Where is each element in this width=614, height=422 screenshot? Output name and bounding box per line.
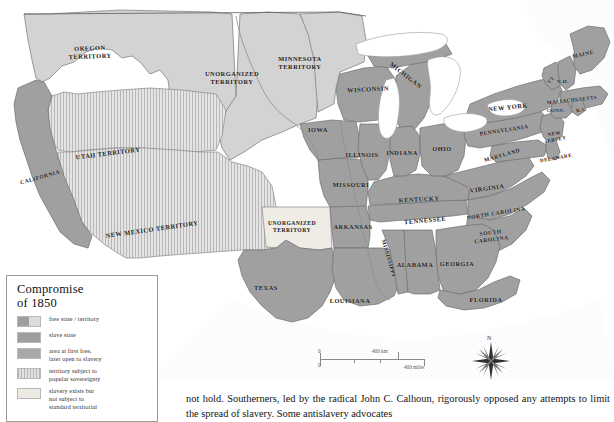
- compass-rose-icon: [468, 336, 514, 380]
- legend-label-line: slavery exists but: [49, 387, 97, 395]
- body-paragraph: not hold. Southerners, led by the radica…: [186, 391, 610, 421]
- compass-rose: N: [468, 336, 514, 380]
- legend-label-line: standard territorial: [49, 403, 97, 411]
- legend-label: territory subject topopular sovereignty: [49, 367, 100, 383]
- legend-label-line: free state / territory: [49, 315, 99, 323]
- legend-label-line: later open to slavery: [49, 355, 102, 363]
- scale-miles-label: 400 miles: [404, 364, 424, 370]
- legend-label-line: territory subject to: [49, 367, 100, 375]
- region-connecticut: [550, 102, 572, 118]
- unorganized-slavery-exists: [262, 207, 332, 250]
- legend-label: free state / territory: [49, 315, 99, 323]
- region-indiana: [390, 126, 420, 176]
- scale-bar-line: [320, 359, 424, 360]
- region-arkansas: [330, 206, 370, 248]
- scale-bar-tick-1: [354, 359, 355, 363]
- legend-title: Compromise of 1850: [7, 276, 157, 313]
- legend-label-line: not subject to: [49, 395, 97, 403]
- page-root: OREGONTERRITORYUNORGANIZEDTERRITORYMINNE…: [0, 0, 614, 422]
- legend-item: free state / territory: [7, 313, 157, 329]
- compass-north-label: N: [487, 335, 491, 341]
- legend-item: area at first free,later open to slavery: [7, 345, 157, 365]
- region-unorganized-indian-territory: [262, 207, 332, 250]
- scale-bar-tick-2: [380, 359, 381, 363]
- legend-label-line: area at first free,: [49, 347, 102, 355]
- region-louisiana: [332, 248, 400, 306]
- legend-item-list: free state / territoryslave statearea at…: [7, 313, 157, 413]
- legend-swatch: [17, 348, 41, 359]
- legend-label: area at first free,later open to slavery: [49, 347, 102, 363]
- region-utah-territory: [48, 88, 226, 152]
- scale-zero-bottom: 0: [318, 362, 321, 368]
- map-legend: Compromise of 1850 free state / territor…: [6, 275, 158, 422]
- legend-label: slavery exists butnot subject tostandard…: [49, 387, 97, 411]
- legend-item: territory subject topopular sovereignty: [7, 365, 157, 385]
- legend-label-line: popular sovereignty: [49, 375, 100, 383]
- legend-item: slave state: [7, 329, 157, 345]
- scale-zero-top: 0: [318, 348, 321, 354]
- scale-bar-cap-km: [398, 352, 399, 360]
- legend-title-line-1: Compromise: [17, 282, 157, 296]
- legend-swatch: [17, 368, 41, 379]
- legend-label-line: slave state: [49, 331, 76, 339]
- legend-swatch: [17, 316, 41, 327]
- legend-swatch: [17, 388, 41, 399]
- legend-item: slavery exists butnot subject tostandard…: [7, 385, 157, 413]
- legend-title-line-2: of 1850: [17, 296, 157, 310]
- scale-km-label: 400 km: [372, 348, 388, 354]
- legend-label: slave state: [49, 331, 76, 339]
- map-scale-bar: 0 0 400 km 400 miles: [320, 348, 450, 376]
- legend-swatch: [17, 332, 41, 343]
